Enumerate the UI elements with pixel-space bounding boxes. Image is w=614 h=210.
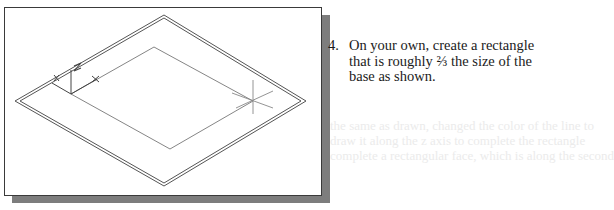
cursor-crosshair <box>232 80 273 114</box>
figure-frame <box>4 7 322 196</box>
inner-rectangle <box>71 47 253 149</box>
step-line-3: base as shown. <box>349 69 589 85</box>
isometric-drawing <box>0 0 330 200</box>
ghost-line-1: the same as drawn, changed the color of … <box>330 118 614 133</box>
step-number: 4. <box>328 38 339 54</box>
step-line-2: that is roughly ⅔ the size of the <box>349 54 589 70</box>
step-line-1: On your own, create a rectangle <box>349 38 589 54</box>
background-ghost-text: the same as drawn, changed the color of … <box>330 118 614 163</box>
step-text: On your own, create a rectangle that is … <box>349 38 589 85</box>
base-plate <box>15 15 306 186</box>
ghost-line-3: complete a rectangular face, which is al… <box>330 148 614 163</box>
ghost-line-2: draw it along the z axis to complete the… <box>330 133 614 148</box>
